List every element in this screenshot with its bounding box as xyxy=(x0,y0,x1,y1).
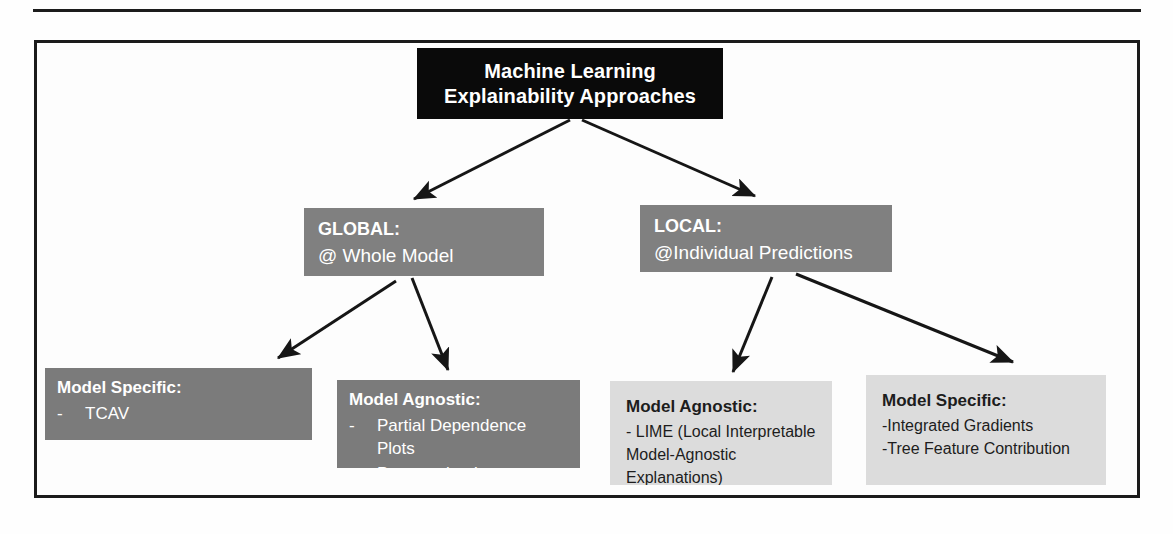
bullet-dash: - xyxy=(349,415,357,461)
node-root-machine-learning-explainability: Machine Learning Explainability Approach… xyxy=(417,48,723,119)
list-item: - Permutation Importance xyxy=(349,463,568,468)
node-global-subtitle: @ Whole Model xyxy=(318,244,530,269)
diagram-page: Machine Learning Explainability Approach… xyxy=(0,0,1173,534)
list-item: - TCAV xyxy=(57,403,300,426)
node-global-title: GLOBAL: xyxy=(318,218,530,241)
list-item-label: TCAV xyxy=(85,403,129,426)
top-horizontal-rule xyxy=(33,9,1141,12)
list-item-label: Partial Dependence Plots xyxy=(377,415,568,461)
node-tcav-title: Model Specific: xyxy=(57,377,300,400)
node-pdp-list: - Partial Dependence Plots - Permutation… xyxy=(349,415,568,468)
node-tcav-list: - TCAV xyxy=(57,403,300,426)
node-pdp-title: Model Agnostic: xyxy=(349,389,568,412)
node-lime-line2: Model-Agnostic Explanations) xyxy=(626,444,818,485)
node-lime-line1: - LIME (Local Interpretable xyxy=(626,421,818,444)
bullet-dash: - xyxy=(57,403,65,426)
node-msgrad-title: Model Specific: xyxy=(882,389,1092,413)
node-msgrad-line1: -Integrated Gradients xyxy=(882,415,1092,438)
bullet-dash: - xyxy=(349,463,357,468)
node-local-model-specific: Model Specific: -Integrated Gradients -T… xyxy=(866,375,1106,485)
node-local-subtitle: @Individual Predictions xyxy=(654,241,878,266)
node-local-title: LOCAL: xyxy=(654,215,878,238)
node-root-line1: Machine Learning xyxy=(484,59,656,83)
node-msgrad-line2: -Tree Feature Contribution xyxy=(882,438,1092,461)
list-item: - Partial Dependence Plots xyxy=(349,415,568,461)
node-local: LOCAL: @Individual Predictions xyxy=(640,205,892,272)
node-local-model-agnostic: Model Agnostic: - LIME (Local Interpreta… xyxy=(610,381,832,485)
node-root-line2: Explainability Approaches xyxy=(444,84,696,108)
node-global-model-agnostic: Model Agnostic: - Partial Dependence Plo… xyxy=(337,380,580,468)
list-item-label: Permutation Importance xyxy=(377,463,558,468)
node-global-model-specific: Model Specific: - TCAV xyxy=(45,368,312,440)
node-global: GLOBAL: @ Whole Model xyxy=(304,208,544,276)
node-lime-title: Model Agnostic: xyxy=(626,395,818,419)
